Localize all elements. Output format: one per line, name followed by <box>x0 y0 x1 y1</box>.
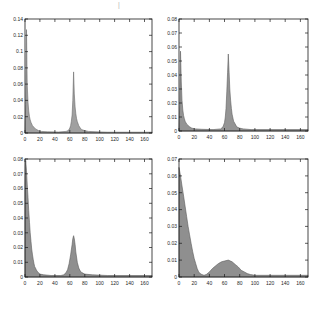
x-tick-label: 160 <box>140 136 149 142</box>
x-tick-label: 80 <box>82 136 88 142</box>
axes-frame <box>179 19 308 131</box>
figure: | 02040608010012014016000.020.040.060.08… <box>0 0 314 309</box>
y-tick-label: 0.02 <box>167 100 177 106</box>
x-tick-label: 0 <box>178 280 181 286</box>
x-tick-label: 20 <box>37 280 43 286</box>
y-tick-label: 0.02 <box>167 240 177 246</box>
y-tick-label: 0.04 <box>167 206 177 212</box>
x-tick-label: 140 <box>125 136 134 142</box>
y-tick-label: 0.01 <box>167 114 177 120</box>
subplot-bottom-right: 02040608010012014016000.010.020.030.040.… <box>167 156 308 286</box>
area-series <box>179 167 308 277</box>
x-tick-label: 40 <box>52 280 58 286</box>
area-series <box>179 51 308 131</box>
x-tick-label: 100 <box>251 280 260 286</box>
y-tick-label: 0 <box>20 274 23 280</box>
y-tick-label: 0.01 <box>167 257 177 263</box>
y-tick-label: 0.14 <box>13 16 23 22</box>
y-tick-label: 0.08 <box>167 16 177 22</box>
x-tick-label: 120 <box>266 280 275 286</box>
x-tick-label: 80 <box>237 134 243 140</box>
y-tick-label: 0 <box>174 128 177 134</box>
y-tick-label: 0 <box>20 130 23 136</box>
x-tick-label: 100 <box>251 134 260 140</box>
y-tick-label: 0.1 <box>16 48 23 54</box>
charts-canvas: 02040608010012014016000.020.040.060.080.… <box>0 0 314 309</box>
x-tick-label: 160 <box>296 134 305 140</box>
y-tick-label: 0.02 <box>13 244 23 250</box>
y-tick-label: 0.03 <box>167 223 177 229</box>
x-tick-label: 20 <box>191 134 197 140</box>
y-tick-label: 0.02 <box>13 114 23 120</box>
y-tick-label: 0.05 <box>167 190 177 196</box>
x-tick-label: 20 <box>191 280 197 286</box>
y-tick-label: 0.06 <box>13 185 23 191</box>
x-tick-label: 140 <box>281 280 290 286</box>
y-tick-label: 0.06 <box>167 44 177 50</box>
subplot-bottom-left: 02040608010012014016000.010.020.030.040.… <box>13 156 152 286</box>
x-tick-label: 40 <box>52 136 58 142</box>
y-tick-label: 0.08 <box>13 65 23 71</box>
x-tick-label: 40 <box>207 280 213 286</box>
axes-frame <box>25 159 152 277</box>
x-tick-label: 140 <box>281 134 290 140</box>
y-tick-label: 0.03 <box>13 230 23 236</box>
axes-frame <box>179 159 308 277</box>
x-tick-label: 60 <box>222 134 228 140</box>
x-tick-label: 0 <box>178 134 181 140</box>
y-tick-label: 0.06 <box>13 81 23 87</box>
x-tick-label: 60 <box>67 136 73 142</box>
area-series <box>25 161 152 278</box>
y-tick-label: 0.05 <box>167 58 177 64</box>
subplot-top-right: 02040608010012014016000.010.020.030.040.… <box>167 16 308 140</box>
x-tick-label: 160 <box>140 280 149 286</box>
x-tick-label: 120 <box>266 134 275 140</box>
y-tick-label: 0.12 <box>13 32 23 38</box>
x-tick-label: 160 <box>296 280 305 286</box>
subplot-top-left: 02040608010012014016000.020.040.060.080.… <box>13 16 152 142</box>
x-tick-label: 0 <box>24 280 27 286</box>
x-tick-label: 40 <box>207 134 213 140</box>
x-tick-label: 120 <box>110 136 119 142</box>
y-tick-label: 0.07 <box>167 156 177 162</box>
y-tick-label: 0.08 <box>13 156 23 162</box>
y-tick-label: 0 <box>174 274 177 280</box>
y-tick-label: 0.07 <box>13 171 23 177</box>
y-tick-label: 0.04 <box>167 72 177 78</box>
x-tick-label: 120 <box>110 280 119 286</box>
x-tick-label: 0 <box>24 136 27 142</box>
axes-frame <box>25 19 152 133</box>
x-tick-label: 100 <box>96 280 105 286</box>
y-tick-label: 0.04 <box>13 97 23 103</box>
x-tick-label: 60 <box>222 280 228 286</box>
y-tick-label: 0.03 <box>167 86 177 92</box>
x-tick-label: 140 <box>125 280 134 286</box>
y-tick-label: 0.04 <box>13 215 23 221</box>
area-series <box>25 30 152 133</box>
x-tick-label: 100 <box>96 136 105 142</box>
y-tick-label: 0.06 <box>167 173 177 179</box>
y-tick-label: 0.05 <box>13 200 23 206</box>
x-tick-label: 80 <box>82 280 88 286</box>
y-tick-label: 0.07 <box>167 30 177 36</box>
x-tick-label: 80 <box>237 280 243 286</box>
x-tick-label: 60 <box>67 280 73 286</box>
x-tick-label: 20 <box>37 136 43 142</box>
y-tick-label: 0.01 <box>13 259 23 265</box>
